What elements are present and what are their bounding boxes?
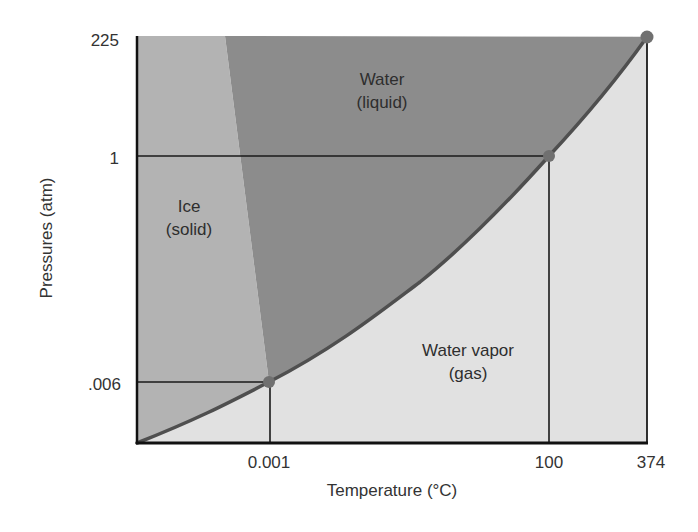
liquid-label-line2: (liquid)	[356, 93, 407, 112]
y-axis-title: Pressures (atm)	[37, 178, 56, 299]
x-tick-374: 374	[637, 453, 665, 472]
vapor-label-line2: (gas)	[449, 364, 488, 383]
x-tick-100: 100	[535, 453, 563, 472]
x-axis-title: Temperature (°C)	[327, 481, 458, 500]
triple-point-marker	[263, 376, 275, 388]
boiling-point-marker	[543, 150, 555, 162]
x-tick-0001: 0.001	[248, 453, 291, 472]
y-tick-225: 225	[91, 31, 119, 50]
vapor-label-line1: Water vapor	[422, 341, 514, 360]
critical-point-marker	[641, 31, 654, 44]
ice-label-line1: Ice	[178, 197, 201, 216]
ice-label-line2: (solid)	[166, 220, 212, 239]
phase-diagram-chart: 225 1 .006 0.001 100 374 Temperature (°C…	[0, 0, 698, 532]
y-tick-1: 1	[110, 149, 119, 168]
y-tick-006: .006	[88, 375, 121, 394]
liquid-label-line1: Water	[360, 70, 405, 89]
